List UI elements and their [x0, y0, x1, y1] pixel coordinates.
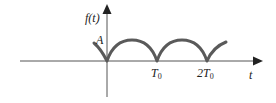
x-axis-label: t — [249, 69, 252, 81]
diagram-canvas — [0, 0, 276, 103]
tick-label-t0-text: T — [151, 66, 158, 80]
tick-label-2t0-text: 2T — [197, 66, 210, 80]
x-axis-arrow-icon — [253, 57, 263, 66]
amplitude-label: A — [96, 34, 103, 46]
tick-label-2t0-sub: 0 — [210, 72, 214, 81]
signal-diagram: f(t) A T0 2T0 t — [0, 0, 276, 103]
tick-label-t0-sub: 0 — [158, 72, 162, 81]
y-axis-label: f(t) — [85, 12, 100, 24]
tick-label-t0: T0 — [151, 67, 162, 83]
waveform-curve — [94, 40, 226, 61]
tick-label-2t0: 2T0 — [197, 67, 214, 83]
y-axis-arrow-icon — [103, 4, 112, 14]
